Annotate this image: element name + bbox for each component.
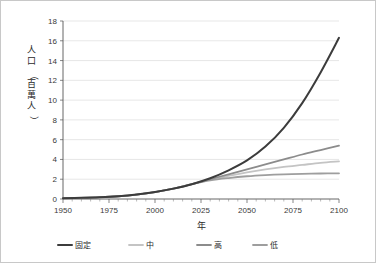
data-series-group: [63, 38, 339, 198]
x-tick-label: 2050: [238, 206, 256, 215]
series-line: [63, 161, 339, 198]
y-tick-labels: 024681012141618: [48, 17, 57, 204]
x-axis: [63, 199, 339, 203]
series-line: [63, 173, 339, 198]
y-axis-title-char: ）: [29, 116, 39, 125]
y-axis-title-char: 人: [27, 45, 36, 55]
y-tick-label: 4: [53, 155, 58, 164]
x-tick-label: 2000: [146, 206, 164, 215]
x-axis-title: 年: [197, 220, 206, 231]
y-axis-title-char: 口: [27, 56, 36, 66]
population-projection-chart: 024681012141618 195019752000202520502075…: [0, 0, 376, 263]
x-tick-labels: 1950197520002025205020752100: [54, 206, 348, 215]
x-tick-label: 1950: [54, 206, 72, 215]
x-tick-label: 2075: [284, 206, 302, 215]
y-axis-title-char: 萬: [27, 89, 36, 100]
x-tick-label: 2025: [192, 206, 210, 215]
y-tick-label: 8: [53, 116, 58, 125]
y-axis-title-char: 人: [27, 101, 36, 111]
series-line: [63, 146, 339, 199]
x-tick-label: 1975: [100, 206, 118, 215]
y-tick-label: 6: [53, 136, 58, 145]
legend-label: 高: [214, 240, 222, 250]
legend: 固定中高低: [58, 240, 278, 250]
legend-label: 中: [146, 240, 154, 250]
legend-label: 低: [270, 240, 278, 250]
x-tick-label: 2100: [330, 206, 348, 215]
y-axis: [60, 21, 63, 199]
y-tick-label: 18: [48, 17, 57, 26]
y-tick-label: 14: [48, 57, 57, 66]
y-tick-label: 2: [53, 175, 58, 184]
y-tick-label: 16: [48, 37, 57, 46]
y-tick-label: 0: [53, 195, 58, 204]
y-axis-title-char: 百: [27, 79, 36, 89]
legend-label: 固定: [75, 240, 91, 250]
y-tick-label: 10: [48, 96, 57, 105]
y-axis-title: 人口（百萬人）: [27, 45, 40, 125]
chart-canvas: 024681012141618 195019752000202520502075…: [1, 1, 376, 263]
y-tick-label: 12: [48, 76, 57, 85]
